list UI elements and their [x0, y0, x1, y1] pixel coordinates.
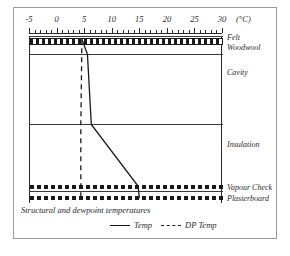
axis-tick-major	[167, 28, 168, 33]
legend: Temp DP Temp	[110, 220, 217, 230]
axis-tick-minor	[128, 30, 129, 33]
axis-unit-label: (°C)	[236, 14, 251, 24]
axis-tick-label: 25	[190, 14, 199, 24]
axis-tick-label: 0	[54, 14, 58, 24]
axis-tick-minor	[90, 30, 91, 33]
axis-tick-major	[84, 28, 85, 33]
layer-label-plasterboard: Plasterboard	[227, 194, 269, 203]
axis-tick-minor	[40, 30, 41, 33]
axis-tick-major	[139, 28, 140, 33]
temperature-curves	[29, 36, 222, 203]
axis-tick-minor	[101, 30, 102, 33]
legend-entry-dp-temp: DP Temp	[161, 220, 216, 230]
axis-tick-major	[194, 28, 195, 33]
legend-swatch-dashed-icon	[161, 225, 181, 226]
axis-tick-minor	[178, 30, 179, 33]
figure-caption: Structural and dewpoint temperatures	[21, 205, 150, 215]
axis-tick-minor	[216, 30, 217, 33]
axis-tick-minor	[62, 30, 63, 33]
axis-tick-minor	[123, 30, 124, 33]
legend-entry-temp: Temp	[110, 220, 152, 230]
layer-label-cavity: Cavity	[227, 68, 248, 77]
axis-tick-major	[222, 28, 223, 33]
axis-tick-minor	[134, 30, 135, 33]
dp-temp-line	[81, 39, 82, 198]
axis-tick-minor	[172, 30, 173, 33]
axis-tick-minor	[150, 30, 151, 33]
axis-tick-minor	[35, 30, 36, 33]
temp-line	[82, 39, 139, 198]
layer-label-vapour-check: Vapour Check	[227, 183, 272, 192]
axis-tick-minor	[183, 30, 184, 33]
axis-tick-minor	[117, 30, 118, 33]
axis-label-row: -5 0 5 10 15 20 25 30 (°C)	[0, 0, 290, 28]
axis-tick-minor	[161, 30, 162, 33]
layer-label-woodwool: Woodwool	[227, 43, 261, 52]
axis-tick-minor	[200, 30, 201, 33]
legend-swatch-solid-icon	[110, 225, 130, 226]
axis-tick-minor	[211, 30, 212, 33]
legend-label-dp-temp: DP Temp	[185, 220, 216, 230]
axis-tick-minor	[95, 30, 96, 33]
axis-tick-major	[57, 28, 58, 33]
axis-tick-label: 5	[82, 14, 86, 24]
axis-line	[29, 33, 222, 34]
axis-tick-minor	[106, 30, 107, 33]
axis-tick-minor	[46, 30, 47, 33]
axis-tick-minor	[68, 30, 69, 33]
axis-tick-minor	[189, 30, 190, 33]
axis-tick-minor	[156, 30, 157, 33]
axis-tick-minor	[145, 30, 146, 33]
axis-tick-major	[112, 28, 113, 33]
axis-tick-label: 20	[163, 14, 172, 24]
axis-tick-label: -5	[25, 14, 32, 24]
layer-label-felt: Felt	[227, 33, 240, 42]
axis-tick-label: 15	[135, 14, 144, 24]
axis-tick-minor	[51, 30, 52, 33]
axis-tick-minor	[73, 30, 74, 33]
legend-label-temp: Temp	[134, 220, 152, 230]
axis-tick-label: 30	[218, 14, 227, 24]
axis-tick-minor	[79, 30, 80, 33]
layer-label-insulation: Insulation	[227, 140, 259, 149]
axis-tick-label: 10	[107, 14, 116, 24]
figure-container: -5 0 5 10 15 20 25 30 (°C) Felt Woodwool…	[0, 0, 290, 256]
axis-tick-major	[29, 28, 30, 33]
axis-tick-minor	[205, 30, 206, 33]
